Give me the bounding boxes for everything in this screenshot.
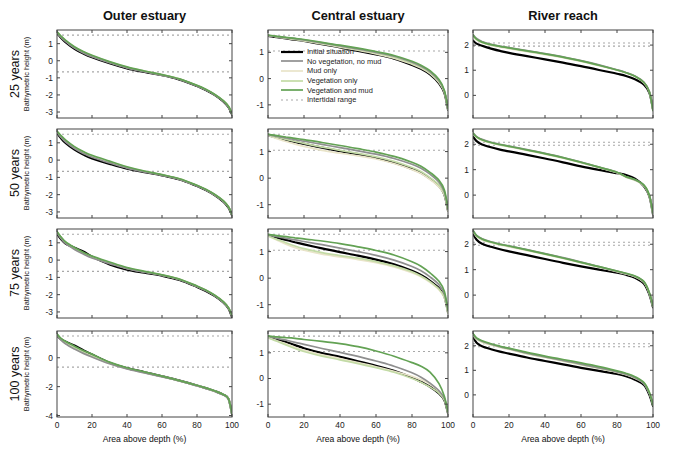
legend-swatch-no_veg_no_mud (281, 57, 303, 65)
y-tick-label: 0 (48, 56, 53, 66)
x-tick-label: 80 (407, 420, 417, 430)
y-tick-label: 1 (48, 39, 53, 49)
x-tick-label: 100 (646, 420, 660, 430)
legend-item-mud_only: Mud only (281, 66, 381, 76)
series-line-initial (57, 233, 232, 317)
x-tick-label: 40 (335, 420, 345, 430)
panel-central-75y: 10-1 (257, 229, 448, 318)
x-tick-label: 0 (266, 420, 271, 430)
legend-item-initial: Initial situation (281, 47, 381, 57)
series-line-no_veg_no_mud (57, 33, 232, 115)
x-tick-label: 60 (371, 420, 381, 430)
panel-outer-25y: 10-1-2-3 (46, 30, 232, 118)
y-tick-label: 0 (464, 290, 469, 300)
legend-item-vegetation_and_mud: Vegetation and mud (281, 85, 381, 95)
y-tick-label: -1 (46, 73, 54, 83)
y-tick-label: 0 (259, 74, 264, 84)
y-tick-label: -3 (46, 307, 54, 317)
hypsometry-figure: Outer estuary Central estuary River reac… (0, 0, 675, 456)
legend-swatch-initial (281, 48, 303, 56)
y-tick-label: 0 (464, 90, 469, 100)
y-tick-label: 1 (48, 138, 53, 148)
series-line-vegetation_and_mud (57, 334, 232, 414)
panel-river-75y: 210 (464, 229, 653, 318)
legend-swatch-vegetation_and_mud (281, 86, 303, 94)
legend-label: Intertidal range (307, 95, 356, 104)
legend-label: Mud only (307, 66, 337, 75)
series-line-initial (57, 33, 232, 115)
y-tick-label: 0 (48, 255, 53, 265)
x-tick-label: 0 (55, 420, 60, 430)
series-line-no_veg_no_mud (57, 132, 232, 215)
series-line-vegetation_only (268, 338, 448, 413)
legend-swatch-mud_only (281, 67, 303, 75)
series-line-no_veg_no_mud (473, 230, 653, 305)
y-tick-label: 1 (259, 348, 264, 358)
axes-box (57, 129, 232, 218)
legend-label: No vegetation, no mud (307, 57, 381, 66)
y-tick-label: -2 (46, 190, 54, 200)
x-axis-label-river: Area above depth (%) (473, 433, 653, 445)
series-line-vegetation_only (473, 334, 653, 404)
y-tick-label: -1 (257, 399, 265, 409)
panel-river-50y: 210 (464, 129, 653, 218)
axes-box (57, 331, 232, 417)
legend-label: Vegetation only (307, 76, 358, 85)
y-tick-label: 2 (464, 341, 469, 351)
axes-box (268, 331, 448, 417)
x-tick-label: 60 (576, 420, 586, 430)
series-line-initial (57, 335, 232, 414)
y-tick-label: 1 (259, 147, 264, 157)
x-axis-label-outer: Area above depth (%) (57, 433, 232, 445)
series-line-mud_only (57, 335, 232, 415)
y-tick-label: -1 (257, 200, 265, 210)
y-tick-label: -3 (46, 107, 54, 117)
series-line-initial (473, 41, 653, 110)
panel-river-100y: 020406080100210 (464, 331, 660, 430)
y-tick-label: -3 (46, 207, 54, 217)
x-tick-label: 0 (471, 420, 476, 430)
y-tick-label: 2 (464, 239, 469, 249)
series-line-vegetation_only (57, 334, 232, 414)
axes-box (57, 30, 232, 118)
series-line-vegetation_only (268, 135, 448, 210)
y-tick-label: -1 (46, 172, 54, 182)
series-line-initial (473, 137, 653, 215)
legend-item-vegetation_only: Vegetation only (281, 76, 381, 86)
y-tick-label: -2 (46, 382, 54, 392)
series-line-mud_only (473, 335, 653, 404)
series-line-mud_only (268, 135, 448, 211)
series-line-no_veg_no_mud (57, 233, 232, 317)
x-tick-label: 20 (299, 420, 309, 430)
series-line-vegetation_only (57, 232, 232, 316)
panel-river-25y: 210 (464, 30, 653, 118)
y-tick-label: -2 (46, 90, 54, 100)
y-tick-label: 0 (464, 190, 469, 200)
y-tick-label: 0 (48, 353, 53, 363)
y-tick-label: -2 (46, 290, 54, 300)
x-tick-label: 60 (157, 420, 167, 430)
y-tick-label: 1 (48, 238, 53, 248)
series-line-mud_only (57, 232, 232, 316)
y-tick-label: -4 (46, 411, 54, 421)
y-tick-label: 0 (259, 173, 264, 183)
x-axis-label-central: Area above depth (%) (268, 433, 448, 445)
x-tick-label: 40 (540, 420, 550, 430)
legend-item-no_veg_no_mud: No vegetation, no mud (281, 57, 381, 67)
x-tick-label: 80 (612, 420, 622, 430)
series-line-no_veg_no_mud (473, 334, 653, 405)
legend-item-intertidal: Intertidal range (281, 95, 381, 105)
panel-outer-50y: 10-1-2-3 (46, 129, 232, 218)
y-tick-label: -1 (257, 100, 265, 110)
x-tick-label: 100 (441, 420, 455, 430)
x-tick-label: 40 (122, 420, 132, 430)
y-tick-label: 1 (464, 365, 469, 375)
y-tick-label: 1 (259, 247, 264, 257)
legend-label: Initial situation (307, 47, 354, 56)
x-tick-label: 20 (87, 420, 97, 430)
legend-swatch-intertidal (281, 96, 303, 104)
legend-label: Vegetation and mud (307, 86, 373, 95)
y-tick-label: 2 (464, 139, 469, 149)
y-tick-label: 2 (464, 40, 469, 50)
chart-legend: Initial situationNo vegetation, no mudMu… (281, 47, 381, 105)
